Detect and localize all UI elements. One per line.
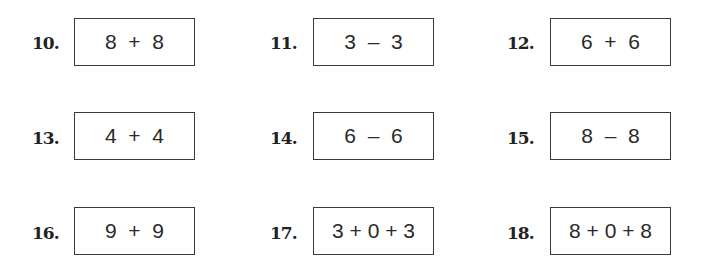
expression-box: 6 + 6	[550, 18, 671, 66]
problem-number: 12.	[507, 33, 534, 53]
problem-number: 15.	[507, 128, 534, 148]
problem-number: 14.	[270, 128, 297, 148]
problem-number: 16.	[32, 223, 59, 243]
expression-box: 9 + 9	[74, 207, 195, 255]
problem-number: 11.	[270, 33, 297, 53]
expression-box: 3 + 0 + 3	[313, 207, 434, 255]
problem-number: 18.	[507, 223, 534, 243]
problem-number: 10.	[32, 33, 59, 53]
problem-number: 13.	[32, 128, 59, 148]
expression-box: 4 + 4	[74, 112, 195, 160]
expression-box: 8 + 8	[74, 18, 195, 66]
problem-number: 17.	[270, 223, 297, 243]
expression-box: 6 – 6	[313, 112, 434, 160]
expression-box: 3 – 3	[313, 18, 434, 66]
expression-box: 8 – 8	[550, 112, 671, 160]
expression-box: 8 + 0 + 8	[550, 207, 671, 255]
